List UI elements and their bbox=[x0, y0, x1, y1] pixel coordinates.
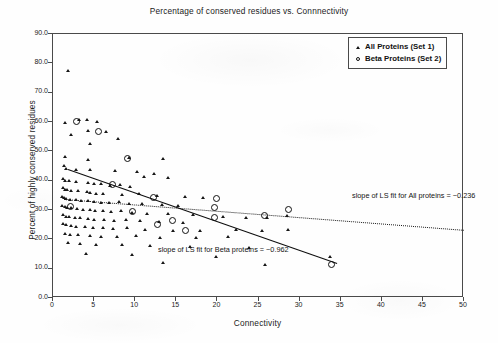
data-point-triangle bbox=[143, 228, 147, 231]
y-axis-tick-label: 10.0 bbox=[14, 263, 48, 270]
data-point-triangle bbox=[86, 217, 90, 220]
data-point-triangle bbox=[66, 241, 70, 244]
data-point-triangle bbox=[124, 218, 128, 221]
y-axis-tick-label: 70.0 bbox=[14, 87, 48, 94]
data-point-triangle bbox=[260, 229, 264, 232]
data-point-triangle bbox=[66, 69, 70, 72]
legend-item-all-proteins: All Proteins (Set 1) bbox=[353, 41, 441, 53]
data-point-triangle bbox=[94, 192, 98, 195]
data-point-circle bbox=[213, 195, 220, 202]
data-point-triangle bbox=[181, 221, 185, 224]
x-axis-tick-mark bbox=[175, 297, 176, 301]
data-point-circle bbox=[73, 118, 80, 125]
data-point-triangle bbox=[76, 233, 80, 236]
x-axis-tick-mark bbox=[216, 297, 217, 301]
data-point-triangle bbox=[328, 255, 332, 258]
data-point-circle bbox=[95, 128, 102, 135]
data-point-triangle bbox=[142, 175, 146, 178]
x-axis-tick-label: 50 bbox=[451, 301, 475, 308]
data-point-triangle bbox=[73, 216, 77, 219]
data-point-triangle bbox=[86, 181, 90, 184]
data-point-circle bbox=[67, 203, 74, 210]
data-point-triangle bbox=[74, 225, 78, 228]
data-point-triangle bbox=[78, 216, 82, 219]
data-point-triangle bbox=[201, 196, 205, 199]
data-point-triangle bbox=[166, 212, 170, 215]
data-point-triangle bbox=[86, 129, 90, 132]
data-point-triangle bbox=[92, 218, 96, 221]
data-point-triangle bbox=[128, 185, 132, 188]
annotation-beta-proteins-slope: slope of LS fit for Beta proteins = −0.9… bbox=[158, 245, 289, 254]
data-point-triangle bbox=[88, 142, 92, 145]
data-point-triangle bbox=[88, 234, 92, 237]
data-point-triangle bbox=[101, 192, 105, 195]
data-point-triangle bbox=[148, 244, 152, 247]
data-point-triangle bbox=[109, 210, 113, 213]
data-point-triangle bbox=[152, 172, 156, 175]
y-axis-tick-label: 40.0 bbox=[14, 175, 48, 182]
x-axis-tick-mark bbox=[381, 297, 382, 301]
data-point-triangle bbox=[111, 227, 115, 230]
data-point-triangle bbox=[91, 226, 95, 229]
x-axis-tick-label: 15 bbox=[163, 301, 187, 308]
data-point-triangle bbox=[69, 133, 73, 136]
data-point-triangle bbox=[69, 189, 73, 192]
data-point-triangle bbox=[130, 253, 134, 256]
data-point-triangle bbox=[135, 170, 139, 173]
data-point-triangle bbox=[69, 224, 73, 227]
data-point-circle bbox=[169, 217, 176, 224]
data-point-triangle bbox=[67, 215, 71, 218]
data-point-triangle bbox=[183, 195, 187, 198]
data-point-triangle bbox=[76, 189, 80, 192]
data-point-triangle bbox=[161, 261, 165, 264]
data-point-triangle bbox=[134, 234, 138, 237]
x-axis-label: Connectivity bbox=[52, 318, 463, 328]
data-point-triangle bbox=[119, 209, 123, 212]
data-point-triangle bbox=[120, 243, 124, 246]
data-point-triangle bbox=[138, 219, 142, 222]
data-point-triangle bbox=[116, 137, 120, 140]
data-point-triangle bbox=[95, 120, 99, 123]
y-axis-tick-label: 60.0 bbox=[14, 117, 48, 124]
x-axis-tick-label: 10 bbox=[122, 301, 146, 308]
data-point-triangle bbox=[104, 130, 108, 133]
y-axis-tick-label: 90.0 bbox=[14, 29, 48, 36]
data-point-circle bbox=[154, 221, 161, 228]
legend-item-label: All Proteins (Set 1) bbox=[365, 41, 434, 53]
chart-page: Percentage of conserved residues vs. Con… bbox=[0, 0, 498, 343]
data-point-triangle bbox=[99, 235, 103, 238]
x-axis-tick-mark bbox=[422, 297, 423, 301]
x-axis-tick-mark bbox=[93, 297, 94, 301]
y-axis-tick-label: 50.0 bbox=[14, 146, 48, 153]
y-axis-tick-label: 0.0 bbox=[14, 293, 48, 300]
data-point-triangle bbox=[84, 252, 88, 255]
x-axis-tick-mark bbox=[258, 297, 259, 301]
annotation-all-proteins-slope: slope of LS fit for All proteins = −0.23… bbox=[352, 191, 475, 200]
chart-legend: All Proteins (Set 1) Beta Proteins (Set … bbox=[348, 37, 447, 69]
data-point-triangle bbox=[102, 218, 106, 221]
data-point-triangle bbox=[125, 226, 129, 229]
y-axis-tick-label: 20.0 bbox=[14, 234, 48, 241]
plot-area bbox=[52, 33, 463, 297]
x-axis-tick-label: 5 bbox=[81, 301, 105, 308]
x-axis-tick-label: 30 bbox=[287, 301, 311, 308]
y-axis-tick-label: 30.0 bbox=[14, 205, 48, 212]
legend-item-beta-proteins: Beta Proteins (Set 2) bbox=[353, 53, 441, 65]
data-point-triangle bbox=[88, 168, 92, 171]
data-point-triangle bbox=[194, 236, 198, 239]
data-point-triangle bbox=[120, 193, 124, 196]
data-point-triangle bbox=[99, 182, 103, 185]
data-point-triangle bbox=[221, 215, 225, 218]
data-point-triangle bbox=[67, 179, 71, 182]
legend-item-label: Beta Proteins (Set 2) bbox=[365, 53, 441, 65]
triangle-marker-icon bbox=[353, 41, 363, 53]
x-axis-tick-mark bbox=[134, 297, 135, 301]
data-point-triangle bbox=[166, 176, 170, 179]
data-point-triangle bbox=[244, 216, 248, 219]
data-point-triangle bbox=[81, 208, 85, 211]
data-point-triangle bbox=[74, 168, 78, 171]
circle-marker-icon bbox=[353, 53, 363, 65]
data-point-triangle bbox=[101, 209, 105, 212]
x-axis-tick-label: 35 bbox=[328, 301, 352, 308]
data-point-triangle bbox=[88, 208, 92, 211]
